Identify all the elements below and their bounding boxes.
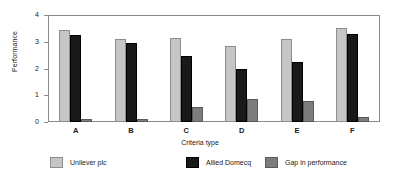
bar [137, 119, 148, 122]
bar [225, 46, 236, 122]
light-gray-swatch [50, 157, 63, 168]
bar-chart-figure: Performance 01234 ABCDEF Criteria type U… [0, 0, 400, 180]
bar [247, 99, 258, 122]
x-tick-label: E [277, 126, 317, 135]
x-tick-label: A [56, 126, 96, 135]
y-tick-label: 0 [35, 117, 39, 126]
legend-item: Allied Domecq [186, 155, 251, 169]
bar-group [170, 15, 203, 122]
bar [81, 119, 92, 122]
y-tick-label: 3 [35, 37, 39, 46]
bar [70, 35, 81, 122]
bar [358, 117, 369, 122]
y-tick-label: 4 [35, 10, 39, 19]
bar [126, 43, 137, 122]
bar [303, 101, 314, 122]
legend-item: Unilever plc [50, 155, 107, 169]
x-tick-label: B [111, 126, 151, 135]
bar-group [336, 15, 369, 122]
bar [181, 56, 192, 122]
y-tick-label: 1 [35, 90, 39, 99]
legend-label: Unilever plc [70, 159, 107, 166]
y-tick-mark [44, 122, 48, 123]
bar [281, 39, 292, 122]
bar [192, 107, 203, 122]
x-axis-title: Criteria type [0, 139, 400, 146]
bar [347, 34, 358, 122]
bar-group [115, 15, 148, 122]
x-tick-label: D [222, 126, 262, 135]
y-tick-label: 2 [35, 64, 39, 73]
bar-groups [48, 15, 380, 122]
bar-group [225, 15, 258, 122]
bar [236, 69, 247, 123]
bar [170, 38, 181, 122]
bar-group [59, 15, 92, 122]
legend-item: Gap in performance [265, 155, 347, 169]
bar-group [281, 15, 314, 122]
bar [336, 28, 347, 122]
medium-gray-swatch [265, 157, 278, 168]
x-tick-label: F [332, 126, 372, 135]
chart-legend: Unilever plcAllied DomecqGap in performa… [0, 155, 400, 175]
legend-label: Gap in performance [285, 159, 347, 166]
black-swatch [186, 157, 199, 168]
x-tick-label: C [166, 126, 206, 135]
bar [115, 39, 126, 122]
bar [292, 62, 303, 122]
bar [59, 30, 70, 122]
y-axis-title: Performance [11, 14, 18, 90]
legend-label: Allied Domecq [206, 159, 251, 166]
